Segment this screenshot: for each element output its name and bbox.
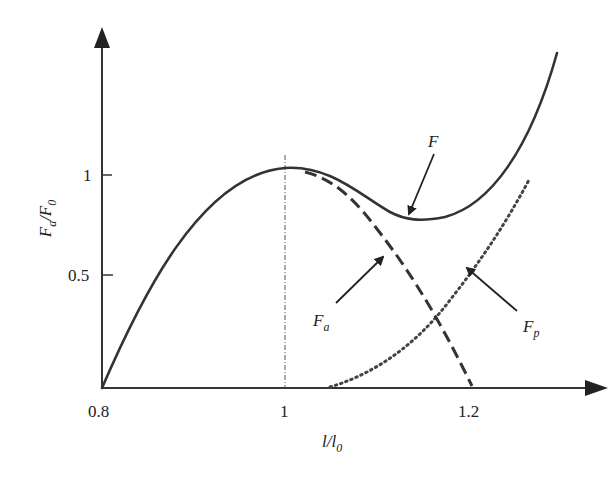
- arrow-F-icon: [409, 154, 434, 214]
- annotation-Fp-sub: p: [533, 326, 539, 340]
- annotation-Fp: Fp: [523, 318, 539, 335]
- y-axis-label-mid: /F: [36, 206, 55, 221]
- x-axis: [102, 380, 608, 396]
- x-tick-label-1.2: 1.2: [458, 403, 479, 420]
- x-tick-label-1: 1: [280, 403, 289, 420]
- x-axis-arrow-icon: [585, 380, 608, 396]
- y-axis-label-sub-a: a: [45, 221, 59, 227]
- annotation-Fp-main: F: [523, 317, 533, 336]
- x-axis-label-main: l/l: [322, 432, 336, 451]
- y-axis-arrow-icon: [94, 27, 110, 48]
- annotation-Fa-main: F: [313, 311, 323, 330]
- arrow-Fp-icon: [467, 268, 517, 311]
- y-axis: [94, 27, 113, 388]
- arrow-Fa-icon: [336, 257, 383, 303]
- y-axis-label-sub-0: 0: [45, 200, 59, 206]
- x-tick-label-0.8: 0.8: [88, 403, 109, 420]
- series-Fa: [305, 172, 472, 386]
- annotation-Fa-sub: a: [323, 320, 329, 334]
- y-tick-label-0.5: 0.5: [68, 267, 89, 284]
- annotation-F: F: [428, 133, 438, 150]
- series-Fp: [330, 178, 530, 387]
- series-F: [102, 53, 557, 388]
- y-axis-label-main: F: [36, 227, 55, 237]
- y-tick-label-1: 1: [83, 167, 92, 184]
- y-axis-label: Fa/F0: [37, 184, 54, 254]
- annotation-Fa: Fa: [313, 312, 329, 329]
- x-axis-label-sub: 0: [336, 441, 342, 455]
- x-axis-label: l/l0: [322, 433, 342, 450]
